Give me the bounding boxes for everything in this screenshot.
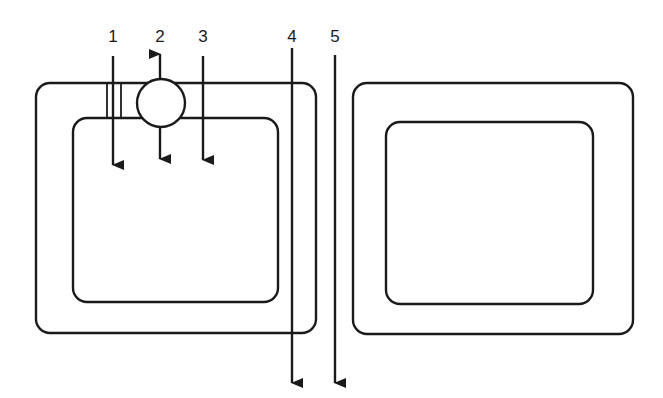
label-4: 4 [287, 27, 296, 46]
left-inner-box [73, 118, 278, 302]
label-5: 5 [330, 27, 339, 46]
diagram-canvas: 12345 [0, 0, 663, 398]
label-2: 2 [155, 27, 164, 46]
label-3: 3 [198, 27, 207, 46]
label-1: 1 [108, 27, 117, 46]
right-panel [353, 83, 633, 334]
labels-group: 12345 [108, 27, 339, 46]
channel-circle [137, 79, 185, 127]
right-inner-box [386, 122, 593, 304]
left-panel [36, 79, 316, 333]
